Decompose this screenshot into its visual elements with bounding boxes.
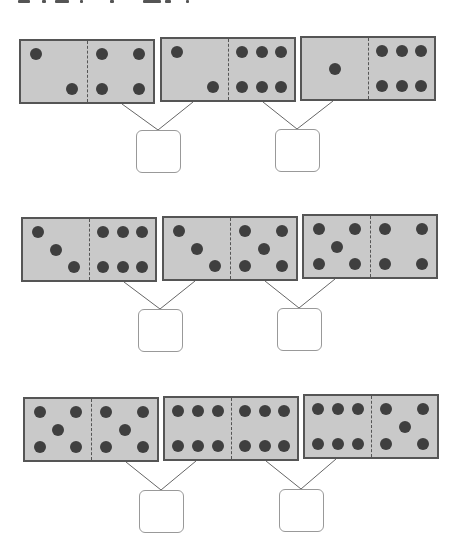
answer-box-row1-1[interactable] <box>136 130 181 173</box>
pip-dot <box>34 441 46 453</box>
pip-dot <box>312 403 324 415</box>
pip-dot <box>415 45 427 57</box>
pip-dot <box>236 46 248 58</box>
pip-dot <box>137 406 149 418</box>
pip-dot <box>68 261 80 273</box>
answer-box-row1-2[interactable] <box>275 129 320 172</box>
pip-dot <box>352 403 364 415</box>
domino-row1-3 <box>300 36 436 101</box>
pip-dot <box>100 406 112 418</box>
pip-dot <box>52 424 64 436</box>
domino-half-left <box>162 39 228 100</box>
pip-dot <box>212 440 224 452</box>
pip-dot <box>276 225 288 237</box>
pip-dot <box>171 46 183 58</box>
domino-half-right <box>87 41 153 102</box>
pip-dot <box>70 406 82 418</box>
pip-dot <box>34 406 46 418</box>
pip-dot <box>332 403 344 415</box>
pip-dot <box>136 261 148 273</box>
pip-dot <box>352 438 364 450</box>
domino-row2-3 <box>302 214 438 279</box>
pip-dot <box>376 80 388 92</box>
pip-dot <box>313 258 325 270</box>
pip-dot <box>192 405 204 417</box>
pip-dot <box>239 225 251 237</box>
domino-half-left <box>304 216 370 277</box>
pip-dot <box>416 223 428 235</box>
pip-dot <box>212 405 224 417</box>
pip-dot <box>258 243 270 255</box>
domino-half-right <box>91 399 157 460</box>
domino-half-left <box>164 218 230 279</box>
pip-dot <box>329 63 341 75</box>
pip-dot <box>380 438 392 450</box>
pip-dot <box>236 81 248 93</box>
pip-dot <box>133 83 145 95</box>
pip-dot <box>256 81 268 93</box>
pip-dot <box>50 244 62 256</box>
domino-half-left <box>165 398 231 459</box>
domino-half-left <box>302 38 368 99</box>
pip-dot <box>379 223 391 235</box>
domino-half-right <box>370 216 436 277</box>
pip-dot <box>259 405 271 417</box>
pip-dot <box>137 441 149 453</box>
domino-half-left <box>305 396 371 457</box>
pip-dot <box>119 424 131 436</box>
pip-dot <box>239 260 251 272</box>
pip-dot <box>172 405 184 417</box>
pip-dot <box>192 440 204 452</box>
pip-dot <box>379 258 391 270</box>
pip-dot <box>239 405 251 417</box>
answer-box-row3-1[interactable] <box>139 490 184 533</box>
pip-dot <box>396 80 408 92</box>
pip-dot <box>191 243 203 255</box>
pip-dot <box>207 81 219 93</box>
answer-box-row2-2[interactable] <box>277 308 322 351</box>
domino-half-right <box>371 396 437 457</box>
pip-dot <box>117 226 129 238</box>
pip-dot <box>66 83 78 95</box>
pip-dot <box>376 45 388 57</box>
pip-dot <box>349 223 361 235</box>
pip-dot <box>396 45 408 57</box>
pip-dot <box>331 241 343 253</box>
pip-dot <box>259 440 271 452</box>
domino-row3-2 <box>163 396 299 461</box>
pip-dot <box>97 226 109 238</box>
pip-dot <box>312 438 324 450</box>
pip-dot <box>313 223 325 235</box>
domino-row2-2 <box>162 216 298 281</box>
domino-row3-3 <box>303 394 439 459</box>
pip-dot <box>276 260 288 272</box>
pip-dot <box>100 441 112 453</box>
pip-dot <box>32 226 44 238</box>
pip-dot <box>415 80 427 92</box>
pip-dot <box>173 225 185 237</box>
domino-row1-1 <box>19 39 155 104</box>
answer-box-row2-1[interactable] <box>138 309 183 352</box>
pip-dot <box>30 48 42 60</box>
pip-dot <box>239 440 251 452</box>
pip-dot <box>332 438 344 450</box>
domino-half-left <box>23 219 89 280</box>
pip-dot <box>209 260 221 272</box>
pip-dot <box>416 258 428 270</box>
pip-dot <box>96 48 108 60</box>
pip-dot <box>278 405 290 417</box>
pip-dot <box>136 226 148 238</box>
domino-row2-1 <box>21 217 157 282</box>
domino-half-right <box>230 218 296 279</box>
domino-half-right <box>231 398 297 459</box>
answer-box-row3-2[interactable] <box>279 489 324 532</box>
pip-dot <box>417 403 429 415</box>
domino-half-right <box>368 38 434 99</box>
pip-dot <box>275 46 287 58</box>
pip-dot <box>275 81 287 93</box>
pip-dot <box>278 440 290 452</box>
pip-dot <box>96 83 108 95</box>
pip-dot <box>133 48 145 60</box>
pip-dot <box>256 46 268 58</box>
pip-dot <box>380 403 392 415</box>
